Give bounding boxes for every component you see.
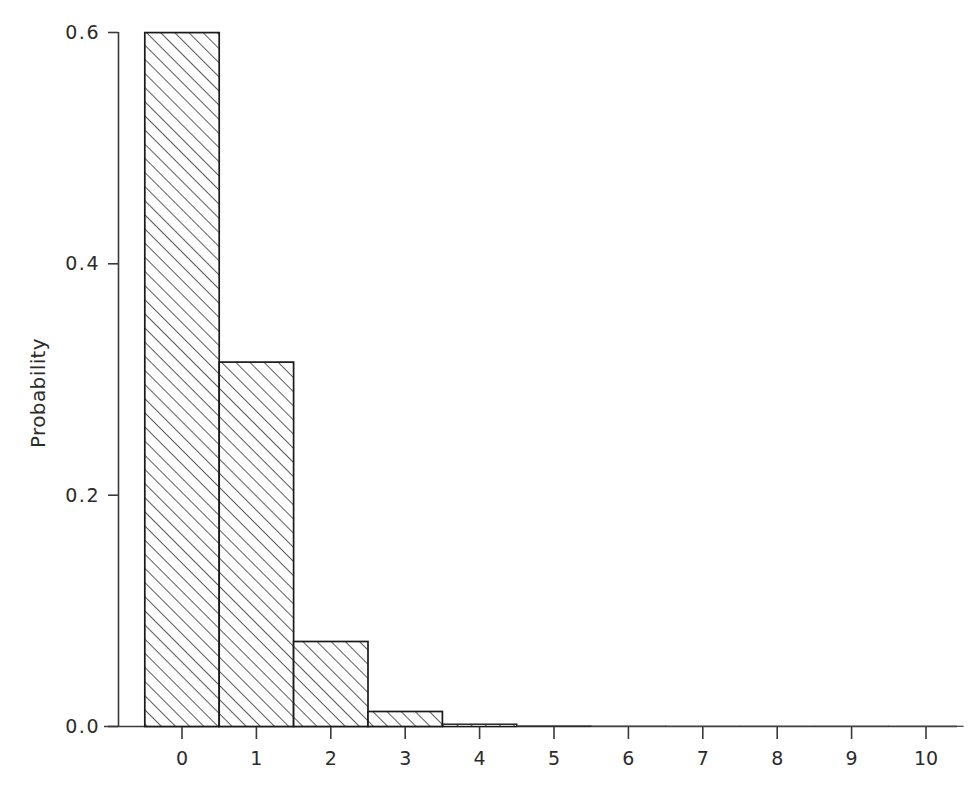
x-tick-label-8: 8 bbox=[771, 747, 783, 769]
bar-6 bbox=[591, 726, 665, 727]
bar-2 bbox=[294, 642, 368, 727]
bar-8 bbox=[740, 726, 814, 727]
x-tick-label-0: 0 bbox=[176, 747, 188, 769]
y-tick-label-2: 0.2 bbox=[65, 484, 100, 506]
bar-10 bbox=[889, 726, 963, 727]
bar-4 bbox=[442, 724, 516, 726]
x-tick-label-3: 3 bbox=[399, 747, 411, 769]
y-axis-title: Probability bbox=[26, 338, 50, 448]
y-tick-label-3: 0.0 bbox=[65, 715, 100, 737]
x-tick-label-7: 7 bbox=[697, 747, 709, 769]
bar-9 bbox=[814, 726, 888, 727]
x-tick-label-5: 5 bbox=[548, 747, 560, 769]
y-tick-label-0: 0.6 bbox=[65, 21, 100, 43]
bar-1 bbox=[219, 362, 293, 726]
x-tick-label-9: 9 bbox=[846, 747, 858, 769]
bar-7 bbox=[666, 726, 740, 727]
x-tick-label-1: 1 bbox=[250, 747, 262, 769]
histogram-plot: 0.6 0.4 0.2 0.0 Probability bbox=[0, 0, 978, 788]
x-tick-label-10: 10 bbox=[914, 747, 938, 769]
x-tick-label-2: 2 bbox=[325, 747, 337, 769]
y-tick-label-1: 0.4 bbox=[65, 252, 100, 274]
x-tick-label-4: 4 bbox=[474, 747, 486, 769]
x-tick-label-6: 6 bbox=[622, 747, 634, 769]
bar-0 bbox=[145, 33, 219, 727]
chart-figure: 0.6 0.4 0.2 0.0 Probability bbox=[0, 0, 978, 788]
bar-5 bbox=[517, 726, 591, 727]
bar-3 bbox=[368, 712, 442, 727]
